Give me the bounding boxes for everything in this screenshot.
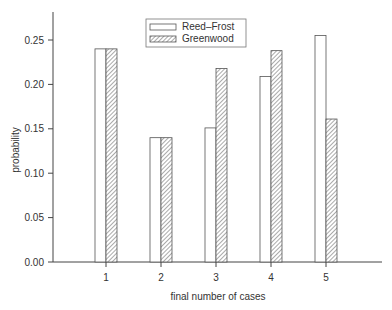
x-tick-label: 2 [158, 272, 164, 283]
x-axis: 12345 [53, 262, 382, 283]
bar-greenwood-1 [106, 49, 117, 262]
legend-label-greenwood: Greenwood [182, 33, 234, 44]
y-axis-label: probability [10, 127, 21, 173]
bar-greenwood-4 [271, 51, 282, 262]
y-tick-label: 0.10 [25, 168, 45, 179]
y-axis: 0.000.050.100.150.200.25 [25, 12, 53, 268]
legend-swatch-open [150, 24, 176, 30]
x-tick-label: 1 [103, 272, 109, 283]
y-tick-label: 0.00 [25, 257, 45, 268]
y-tick-label: 0.20 [25, 79, 45, 90]
legend: Reed–Frost Greenwood [146, 19, 246, 47]
bar-greenwood-2 [161, 138, 172, 262]
y-tick-label: 0.05 [25, 212, 45, 223]
bar-greenwood-5 [326, 119, 337, 262]
bar-reed-frost-4 [260, 76, 271, 262]
x-tick-label: 5 [323, 272, 329, 283]
bar-reed-frost-3 [205, 128, 216, 262]
legend-label-reed-frost: Reed–Frost [182, 21, 234, 32]
x-axis-label: final number of cases [170, 291, 265, 302]
bar-reed-frost-2 [150, 138, 161, 262]
bar-reed-frost-1 [95, 49, 106, 262]
x-tick-label: 4 [268, 272, 274, 283]
bars [95, 36, 337, 262]
y-tick-label: 0.25 [25, 35, 45, 46]
bar-chart: 0.000.050.100.150.200.25 12345 Reed–Fros… [0, 0, 392, 310]
bar-greenwood-3 [216, 68, 227, 262]
legend-swatch-hatched [150, 36, 176, 42]
bar-reed-frost-5 [315, 36, 326, 262]
x-tick-label: 3 [213, 272, 219, 283]
y-tick-label: 0.15 [25, 123, 45, 134]
